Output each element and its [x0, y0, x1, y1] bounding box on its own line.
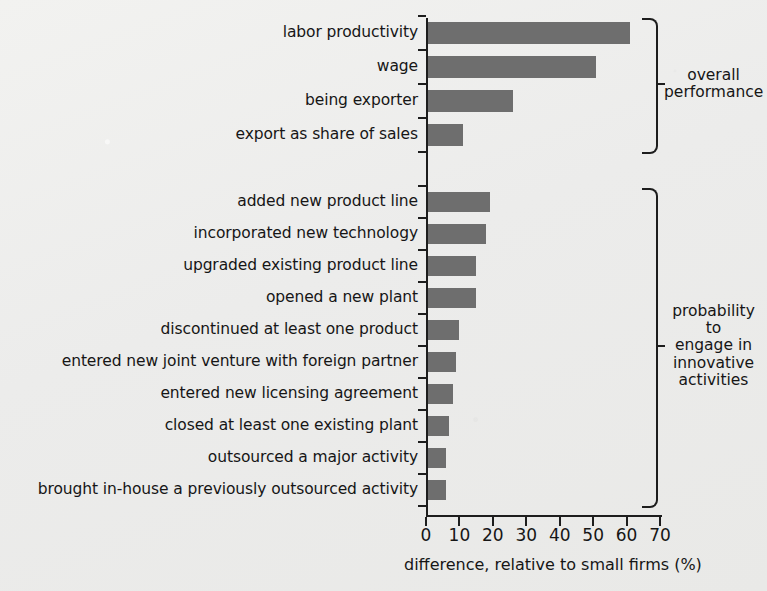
category-label: opened a new plant — [0, 290, 418, 306]
bar — [428, 448, 446, 468]
category-label: discontinued at least one product — [0, 322, 418, 338]
y-axis-tick — [418, 345, 426, 347]
y-axis-tick — [418, 441, 426, 443]
bar — [428, 90, 513, 112]
bar — [428, 480, 446, 500]
x-axis-tick-label: 20 — [482, 527, 504, 544]
x-axis-tick-label: 50 — [582, 527, 604, 544]
bar — [428, 320, 459, 340]
y-axis-tick — [418, 249, 426, 251]
bar — [428, 352, 456, 372]
bar — [428, 384, 453, 404]
y-axis-tick — [418, 313, 426, 315]
category-label: added new product line — [0, 194, 418, 210]
bar — [428, 416, 449, 436]
category-label: being exporter — [0, 93, 418, 109]
category-label: upgraded existing product line — [0, 258, 418, 274]
bar — [428, 22, 630, 44]
y-axis-tick — [418, 217, 426, 219]
y-axis-tick — [418, 409, 426, 411]
y-axis-tick — [418, 151, 426, 153]
y-axis-tick — [418, 117, 426, 119]
y-axis-tick — [418, 505, 426, 507]
bar — [428, 256, 476, 276]
y-axis-tick — [418, 49, 426, 51]
category-label: wage — [0, 59, 418, 75]
category-label: entered new licensing agreement — [0, 386, 418, 402]
x-axis-tick-label: 40 — [549, 527, 571, 544]
y-axis-tick — [418, 15, 426, 17]
x-axis-tick-label: 0 — [421, 527, 432, 544]
x-axis-tick-label: 30 — [515, 527, 537, 544]
category-label: entered new joint venture with foreign p… — [0, 354, 418, 370]
x-axis-tick-label: 70 — [649, 527, 671, 544]
y-axis-tick — [418, 83, 426, 85]
category-label: export as share of sales — [0, 127, 418, 143]
y-axis-tick — [418, 377, 426, 379]
x-axis-tick-label: 10 — [449, 527, 471, 544]
category-label: incorporated new technology — [0, 226, 418, 242]
y-axis-tick — [418, 185, 426, 187]
group-bracket — [642, 188, 658, 508]
group-bracket-label: overall performance — [664, 67, 763, 102]
bar — [428, 224, 486, 244]
bar — [428, 192, 490, 212]
category-label: brought in-house a previously outsourced… — [0, 482, 418, 498]
group-bracket — [642, 18, 658, 154]
bar — [428, 56, 596, 78]
bar — [428, 124, 463, 146]
category-label: closed at least one existing plant — [0, 418, 418, 434]
group-bracket-label: probability to engage in innovative acti… — [664, 303, 763, 390]
y-axis-tick — [418, 281, 426, 283]
y-axis-tick — [418, 473, 426, 475]
category-label: outsourced a major activity — [0, 450, 418, 466]
x-axis-title: difference, relative to small firms (%) — [404, 557, 702, 573]
x-axis-tick-label: 60 — [616, 527, 638, 544]
bar — [428, 288, 476, 308]
horizontal-bar-chart: labor productivitywagebeing exporterexpo… — [0, 0, 767, 591]
category-label: labor productivity — [0, 25, 418, 41]
